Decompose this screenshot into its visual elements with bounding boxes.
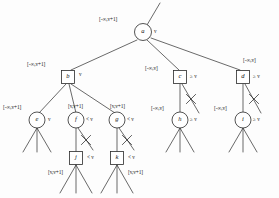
value-label-d: ≥ v: [253, 74, 260, 79]
value-label-g: < v: [127, 117, 134, 122]
interval-label-e: [-∞,v+1]: [3, 105, 21, 110]
leaf-edge: [243, 128, 257, 152]
node-label-b: b: [62, 73, 74, 80]
leaf-edge: [101, 165, 117, 193]
value-label-a: v: [154, 29, 157, 34]
value-label-h: ≥ v: [190, 117, 197, 122]
interval-label-i: [-∞,v]: [214, 106, 227, 111]
edge-root-stem: [147, 3, 160, 25]
game-tree-diagram: a[-∞,v+1]vb[-∞,v+1]vc[-∞,v]≥ vd[-∞,v]≥ v…: [0, 0, 279, 198]
interval-label-k: [v,v+1]: [128, 170, 143, 175]
leaf-edge: [180, 128, 194, 152]
value-label-b: v: [79, 72, 82, 77]
node-label-h: h: [174, 116, 186, 123]
node-label-k: k: [111, 154, 123, 161]
edge-a-d: [151, 38, 240, 70]
node-label-d: d: [237, 73, 249, 80]
value-label-j: < v: [87, 155, 94, 160]
node-label-i: i: [237, 116, 249, 123]
leaf-fan-j: [60, 165, 92, 193]
node-label-g: g: [111, 116, 123, 123]
value-label-c: ≥ v: [190, 74, 197, 79]
leaf-edge: [23, 128, 37, 152]
leaf-fan-i: [229, 128, 257, 152]
interval-label-b: [-∞,v+1]: [27, 62, 45, 67]
value-label-i: ≥ v: [253, 117, 260, 122]
value-label-f: < v: [86, 117, 93, 122]
leaf-edge: [76, 165, 92, 193]
leaf-edge: [166, 128, 180, 152]
leaf-edge: [229, 128, 243, 152]
leaf-fan-e: [23, 128, 51, 152]
interval-label-j: [v,v+1]: [48, 170, 63, 175]
node-label-a: a: [137, 28, 149, 35]
interval-label-c: [-∞,v]: [145, 66, 158, 71]
interval-label-a: [-∞,v+1]: [99, 17, 117, 22]
leaf-fan-h: [166, 128, 194, 152]
node-label-e: e: [31, 116, 43, 123]
pruned-cut-mark: [186, 94, 195, 103]
pruned-cut-mark: [81, 135, 90, 144]
leaf-edge: [37, 128, 51, 152]
node-label-f: f: [70, 116, 82, 123]
interval-label-f: [v,v+1]: [68, 104, 83, 109]
value-label-k: < v: [128, 155, 135, 160]
interval-label-d: [-∞,v]: [243, 58, 256, 63]
pruned-cut-mark: [122, 135, 131, 144]
interval-label-g: [v,v+1]: [110, 104, 125, 109]
node-label-j: j: [70, 154, 82, 161]
value-label-e: v: [48, 117, 51, 122]
interval-label-h: [-∞,v]: [151, 106, 164, 111]
pruned-cut-mark: [249, 94, 258, 103]
edge-a-b: [71, 40, 137, 70]
edge-b-e: [39, 84, 66, 113]
node-label-c: c: [174, 73, 186, 80]
